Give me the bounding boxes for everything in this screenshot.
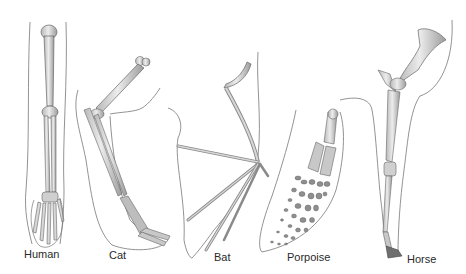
bat-wing bbox=[168, 52, 268, 258]
cat-leg bbox=[76, 57, 170, 250]
horse-leg bbox=[340, 20, 452, 258]
limb-illustrations bbox=[0, 0, 466, 274]
porpoise-flipper bbox=[260, 109, 344, 252]
label-bat: Bat bbox=[214, 251, 231, 263]
homologous-limbs-figure: Human Cat Bat Porpoise Horse bbox=[0, 0, 466, 274]
human-arm bbox=[25, 22, 66, 247]
label-horse: Horse bbox=[407, 253, 436, 265]
label-human: Human bbox=[24, 248, 59, 260]
label-cat: Cat bbox=[109, 249, 126, 261]
label-porpoise: Porpoise bbox=[287, 251, 330, 263]
